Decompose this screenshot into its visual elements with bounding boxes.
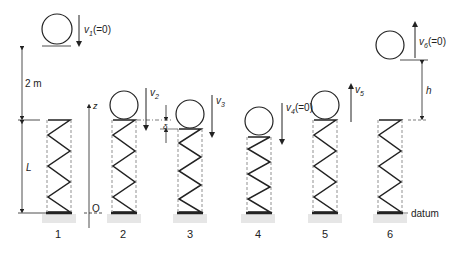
- ball-5: [311, 91, 339, 119]
- spring-1: [48, 120, 70, 212]
- v5-sub: 5: [360, 90, 364, 97]
- velocity-label-2: v2: [150, 88, 159, 100]
- z-axis-label: z: [93, 102, 98, 111]
- velocity-label-3: v3: [216, 96, 225, 108]
- v3-sub: 3: [221, 101, 225, 108]
- ball-1: [42, 14, 72, 44]
- velocity-label-5: v5: [355, 85, 364, 97]
- stage-number-4: 4: [255, 229, 261, 240]
- stage-4: [245, 103, 282, 213]
- origin-label: O: [92, 204, 100, 214]
- stage-number-5: 5: [322, 229, 328, 240]
- stage-number-1: 1: [55, 229, 61, 240]
- stage-number-6: 6: [387, 229, 393, 240]
- v6-note: (=0): [428, 36, 446, 47]
- spring-ball-diagram: [0, 0, 462, 253]
- spring-3: [179, 129, 201, 212]
- datum-label: datum: [411, 209, 439, 219]
- ball-3: [176, 100, 204, 128]
- compression-label: δ: [163, 123, 167, 131]
- velocity-label-4: v4(=0): [286, 103, 313, 115]
- stage-5: [311, 86, 351, 213]
- velocity-label-6: v6(=0): [419, 37, 446, 49]
- stage-6: [376, 24, 428, 213]
- spring-5: [314, 120, 336, 212]
- v4-note: (=0): [295, 102, 313, 113]
- drop-height-label: 2 m: [25, 79, 42, 89]
- stage-2: [110, 88, 172, 213]
- ball-2: [110, 91, 138, 119]
- spring-length-label: L: [26, 163, 32, 173]
- spring-6: [379, 120, 401, 212]
- ground-blocks: [42, 214, 407, 223]
- velocity-label-1: v1(=0): [84, 25, 111, 37]
- dimension-lines-left: [18, 48, 46, 213]
- ball-6: [376, 31, 404, 59]
- stage-number-2: 2: [120, 229, 126, 240]
- spring-4: [248, 137, 270, 212]
- spring-2: [113, 120, 135, 212]
- v1-note: (=0): [93, 24, 111, 35]
- v2-sub: 2: [155, 93, 159, 100]
- ball-4: [245, 107, 273, 135]
- stage-3: [160, 95, 212, 213]
- stage-number-3: 3: [187, 229, 193, 240]
- rebound-height-label: h: [426, 86, 432, 96]
- stage-1: [42, 14, 79, 213]
